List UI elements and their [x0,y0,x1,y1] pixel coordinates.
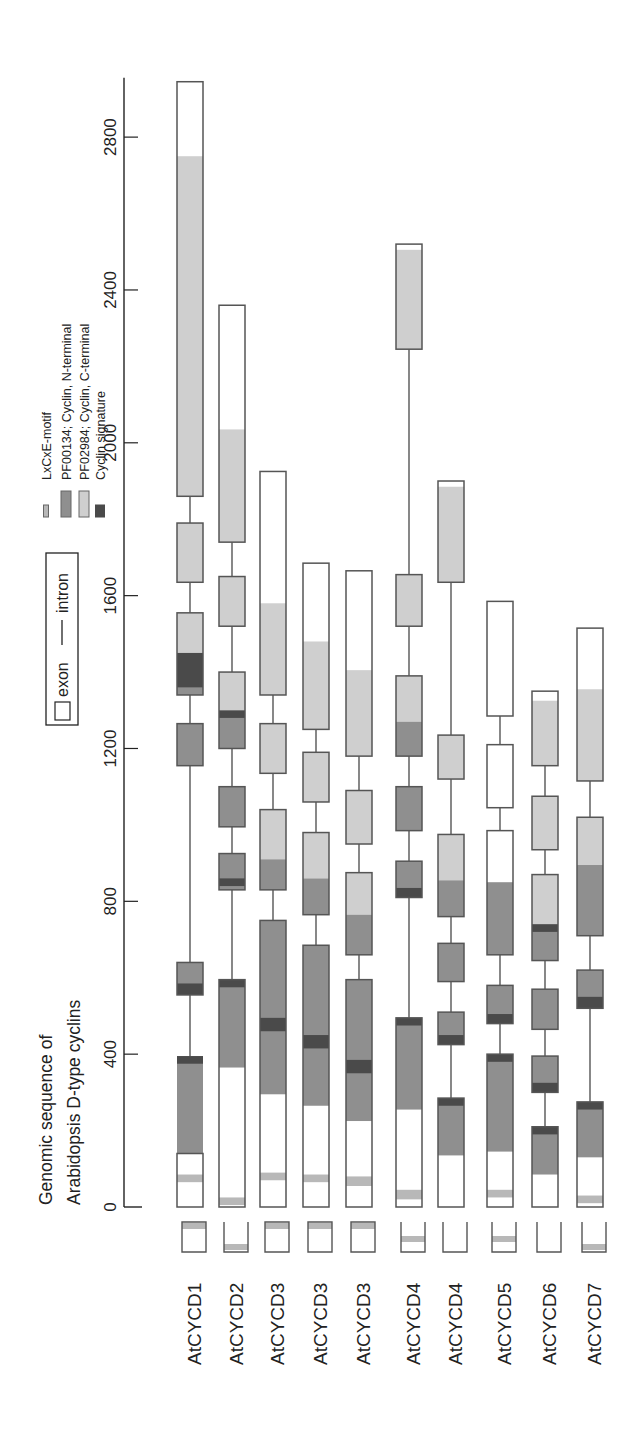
domain-cterm [303,641,329,729]
gene-start-thumbnail [182,1222,206,1252]
gene-track [346,571,372,1207]
axis-tick-label: 800 [101,887,120,915]
gene-label: AtCYCD5 [494,1283,515,1365]
domain-cterm [219,577,245,627]
domain-nterm [532,989,558,1029]
domain-cterm [532,701,558,766]
gene-start-thumbnail [492,1222,516,1252]
axis-tick-label: 2400 [101,271,120,309]
domain-cterm [177,523,203,582]
domain-lxcxe [577,1196,603,1204]
gene-track [487,601,513,1207]
domain-sig [177,983,203,994]
domain-cterm [438,487,464,583]
domain-sig [532,1083,558,1093]
domain-sig [577,1102,603,1110]
domain-sig [303,1035,329,1048]
domain-lxcxe [219,1197,245,1205]
domain-cterm [396,676,422,722]
gene-start-thumbnail [265,1222,289,1252]
genomic-position-axis: 040080012001600200024002800 [101,78,142,1212]
exon-swatch [55,702,70,720]
lxcxe-mark [182,1223,206,1229]
domain-lxcxe [487,1190,513,1198]
gene-track [438,481,464,1207]
gene-start-thumbnail [401,1222,425,1252]
domain-sig [346,1060,372,1073]
lxcxe-mark [265,1223,289,1229]
exon-box [487,601,513,716]
gene-track [177,82,203,1207]
legend-swatch-cterm [79,491,89,517]
axis-tick-label: 1600 [101,577,120,615]
domain-nterm [396,787,422,831]
intron-legend-label: intron [54,573,71,613]
domain-sig [396,888,422,898]
domain-sig [577,997,603,1008]
domain-cterm [260,724,286,774]
gene-start-thumbnail [308,1222,332,1252]
domain-sig [260,1018,286,1031]
gene-tracks [177,82,603,1207]
domain-nterm [346,980,372,1121]
exon-legend-label: exon [54,662,71,697]
domain-nterm [487,1054,513,1151]
domain-nterm [577,865,603,936]
axis-tick-label: 1200 [101,730,120,768]
gene-track [260,471,286,1207]
gene-start-thumbnails [182,1222,606,1252]
thumbnail-box [443,1222,467,1252]
gene-start-thumbnail [582,1222,606,1252]
domain-sig [487,1014,513,1024]
domain-sig [438,1098,464,1106]
axis-tick-label: 2800 [101,118,120,156]
axis-tick-label: 0 [101,1202,120,1211]
gene-label: AtCYCD3 [310,1283,331,1365]
domain-cterm [396,250,422,349]
domain-sig [532,924,558,932]
domain-nterm [396,722,422,756]
gene-label: AtCYCD2 [226,1283,247,1365]
domain-cterm [177,613,203,653]
gene-label: AtCYCD3 [353,1283,374,1365]
domain-nterm [577,1102,603,1157]
axis-tick-label: 400 [101,1040,120,1068]
legend-swatch-nterm [61,491,71,517]
lxcxe-mark [401,1236,425,1242]
domain-lxcxe [177,1175,203,1183]
gene-track [532,691,558,1207]
gene-track [396,244,422,1207]
domain-nterm [438,943,464,981]
gene-label: AtCYCD6 [539,1283,560,1365]
gene-start-thumbnail [443,1222,467,1252]
legend-swatch-sig [96,505,105,517]
title-line-1: Genomic sequence of [36,1035,56,1205]
domain-cterm [260,810,286,860]
domain-nterm [303,878,329,914]
domain-cterm [303,752,329,802]
domain-sig [177,653,203,687]
domain-nterm [260,920,286,1094]
domain-nterm [260,859,286,890]
domain-nterm [303,945,329,1105]
domain-nterm [177,1056,203,1153]
gene-track [303,563,329,1207]
domain-cterm [346,670,372,756]
domain-nterm [177,724,203,766]
lxcxe-mark [224,1244,248,1250]
gene-label: AtCYCD4 [445,1282,466,1365]
gene-track [219,305,245,1207]
domain-nterm [219,714,245,748]
domain-cterm [438,834,464,880]
domain-sig [219,980,245,988]
lxcxe-mark [351,1223,375,1229]
lxcxe-mark [582,1244,606,1250]
domain-cterm [396,575,422,627]
protein-domain-legend: LxCxE-motifPF00134; Cyclin, N-terminalPF… [40,324,108,517]
legend-swatch-lxcxe [44,505,49,517]
gene-start-thumbnail [537,1222,561,1252]
legend-label-nterm: PF00134; Cyclin, N-terminal [60,324,74,480]
domain-nterm [438,1098,464,1155]
domain-cterm [346,791,372,844]
domain-cterm [577,817,603,865]
